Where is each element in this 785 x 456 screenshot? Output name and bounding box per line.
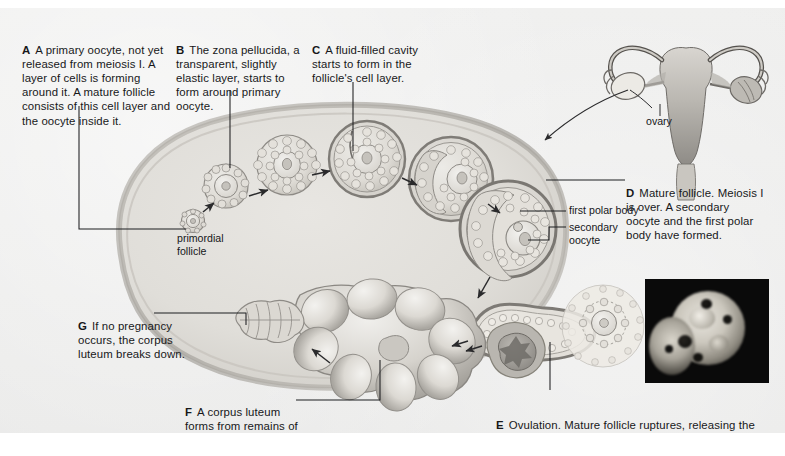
stage-secondary-follicle bbox=[329, 121, 405, 197]
caption-d-letter: D bbox=[626, 187, 634, 199]
stage-degenerating-corpus-luteum bbox=[487, 323, 545, 378]
ovulation-micrograph bbox=[645, 279, 769, 383]
caption-g-text: If no pregnancy occurs, the corpus luteu… bbox=[78, 320, 185, 360]
figure-root: AA primary oocyte, not yet released from… bbox=[0, 0, 785, 456]
caption-b-letter: B bbox=[176, 44, 184, 56]
caption-a-text: A primary oocyte, not yet released from … bbox=[22, 44, 170, 126]
caption-d-text: Mature follicle. Meiosis I is over. A se… bbox=[626, 187, 763, 241]
label-primordial-follicle: primordial follicle bbox=[177, 232, 224, 257]
caption-b: BThe zona pellucida, a transparent, slig… bbox=[176, 29, 308, 114]
caption-e-text: Ovulation. Mature follicle ruptures, rel… bbox=[496, 419, 755, 433]
caption-c-letter: C bbox=[312, 44, 320, 56]
caption-a-letter: A bbox=[22, 44, 30, 56]
caption-f-letter: F bbox=[185, 406, 192, 418]
caption-d: DMature follicle. Meiosis I is over. A s… bbox=[626, 172, 766, 242]
diagram-panel: AA primary oocyte, not yet released from… bbox=[0, 8, 785, 433]
label-secondary-oocyte: secondary oocyte bbox=[569, 221, 618, 246]
left-ovary-shape bbox=[608, 69, 648, 103]
caption-e-letter: E bbox=[496, 419, 504, 431]
caption-c: CA fluid-filled cavity starts to form in… bbox=[312, 29, 447, 85]
caption-b-text: The zona pellucida, a transparent, sligh… bbox=[176, 44, 300, 112]
caption-f: FA corpus luteum forms from remains of r… bbox=[185, 391, 309, 433]
label-ovary: ovary bbox=[646, 115, 672, 128]
caption-a: AA primary oocyte, not yet released from… bbox=[22, 29, 177, 128]
caption-f-text: A corpus luteum forms from remains of ru… bbox=[185, 406, 298, 433]
caption-e: EOvulation. Mature follicle ruptures, re… bbox=[496, 404, 785, 433]
caption-g-letter: G bbox=[78, 320, 87, 332]
caption-c-text: A fluid-filled cavity starts to form in … bbox=[312, 44, 418, 84]
label-first-polar-body: first polar body bbox=[569, 204, 638, 217]
inset-to-ovary-arrow bbox=[545, 90, 628, 140]
caption-g: GIf no pregnancy occurs, the corpus lute… bbox=[78, 305, 202, 361]
